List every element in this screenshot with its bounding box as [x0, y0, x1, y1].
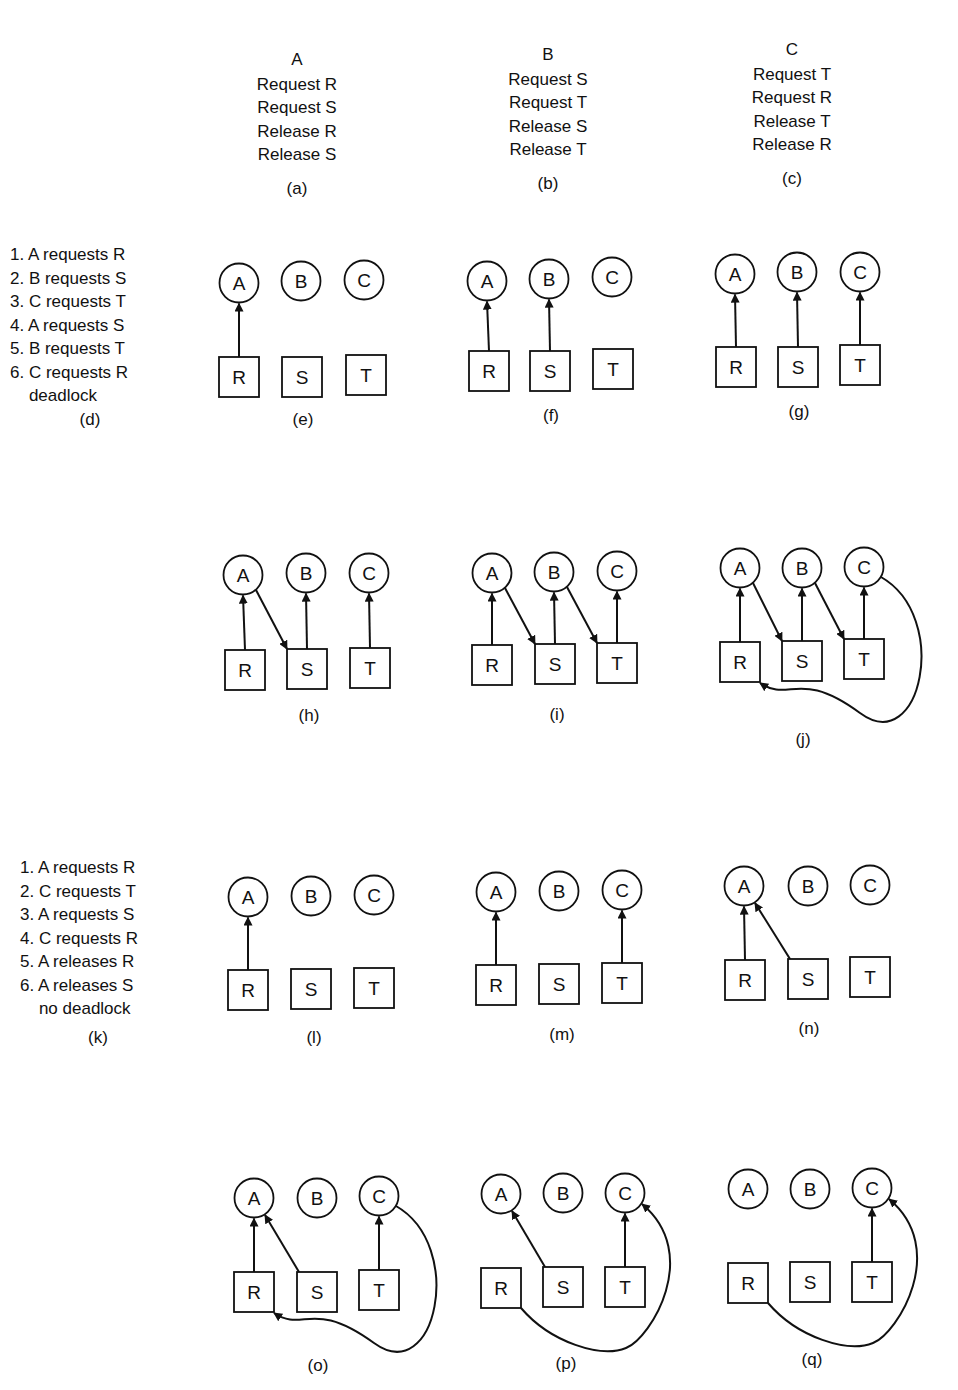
node-label: C [863, 875, 877, 896]
node-label: R [485, 655, 499, 676]
node-label: S [792, 357, 805, 378]
graph-q: ABCRST [728, 1169, 917, 1347]
holds-edge-S-A [512, 1211, 545, 1267]
node-label: A [490, 882, 503, 903]
node-label: B [295, 271, 308, 292]
holds-edge-S-A [265, 1215, 299, 1272]
graph-l: ABCRST [228, 876, 394, 1011]
holds-edge-S-B [306, 594, 307, 650]
node-label: C [853, 262, 867, 283]
node-label: R [232, 367, 246, 388]
graph-e: ABCRST [219, 261, 386, 398]
node-label: A [242, 887, 255, 908]
node-label: S [557, 1277, 570, 1298]
node-label: B [553, 881, 566, 902]
node-label: T [364, 658, 376, 679]
node-label: R [729, 357, 743, 378]
node-label: C [372, 1186, 386, 1207]
node-label: A [729, 264, 742, 285]
node-label: R [238, 660, 252, 681]
node-label: C [857, 557, 871, 578]
node-label: B [311, 1188, 324, 1209]
node-label: R [738, 970, 752, 991]
graph-p: ABCRST [481, 1174, 670, 1352]
node-label: T [619, 1277, 631, 1298]
node-label: S [796, 651, 809, 672]
node-label: A [481, 271, 494, 292]
node-label: S [804, 1272, 817, 1293]
node-label: A [248, 1188, 261, 1209]
node-label: A [486, 563, 499, 584]
node-label: T [858, 649, 870, 670]
node-label: B [796, 558, 809, 579]
node-label: T [368, 978, 380, 999]
node-label: R [482, 361, 496, 382]
node-label: C [367, 885, 381, 906]
node-label: T [360, 365, 372, 386]
node-label: R [241, 980, 255, 1001]
graph-h: ABCRST [224, 554, 391, 691]
graph-g: ABCRST [716, 253, 881, 388]
node-label: R [741, 1273, 755, 1294]
node-label: C [618, 1183, 632, 1204]
node-label: C [362, 563, 376, 584]
node-label: T [611, 653, 623, 674]
node-label: R [247, 1282, 261, 1303]
node-label: S [544, 361, 557, 382]
node-label: B [300, 563, 313, 584]
node-label: B [791, 262, 804, 283]
request-edge-A-S [505, 588, 535, 644]
node-label: T [373, 1280, 385, 1301]
holds-edge-R-A [744, 907, 745, 961]
node-label: A [738, 876, 751, 897]
holds-edge-R-A [487, 302, 489, 352]
node-label: C [610, 561, 624, 582]
node-label: A [734, 558, 747, 579]
node-label: A [237, 565, 250, 586]
holds-edge-T-C [369, 594, 370, 649]
node-label: R [494, 1278, 508, 1299]
node-label: T [864, 967, 876, 988]
node-label: B [305, 886, 318, 907]
node-label: T [866, 1272, 878, 1293]
node-label: C [865, 1178, 879, 1199]
graph-i: ABCRST [472, 552, 637, 686]
node-label: S [301, 659, 314, 680]
node-label: B [548, 562, 561, 583]
node-label: C [615, 880, 629, 901]
holds-edge-S-B [554, 593, 555, 645]
holds-edge-R-A [243, 596, 245, 651]
node-label: A [495, 1184, 508, 1205]
node-label: B [543, 269, 556, 290]
graphs-layer: ABCRSTABCRSTABCRSTABCRSTABCRSTABCRSTABCR… [219, 253, 921, 1352]
request-edge-B-T [567, 587, 597, 643]
graph-m: ABCRST [476, 871, 642, 1006]
graph-j: ABCRST [720, 548, 921, 722]
node-label: A [742, 1179, 755, 1200]
node-label: R [489, 975, 503, 996]
node-label: S [802, 969, 815, 990]
request-edge-A-S [256, 590, 287, 649]
request-edge-A-S [753, 583, 782, 641]
graph-n: ABCRST [725, 866, 891, 1001]
node-label: B [804, 1179, 817, 1200]
node-label: B [557, 1183, 570, 1204]
holds-edge-S-B [797, 293, 798, 348]
holds-edge-S-A [755, 903, 790, 959]
node-label: T [616, 973, 628, 994]
node-label: C [357, 270, 371, 291]
node-label: S [305, 979, 318, 1000]
node-label: B [802, 876, 815, 897]
resource-graph-canvas: ABCRSTABCRSTABCRSTABCRSTABCRSTABCRSTABCR… [0, 0, 958, 1390]
request-edge-B-T [815, 583, 844, 639]
node-label: A [233, 273, 246, 294]
node-label: S [553, 974, 566, 995]
node-label: T [854, 355, 866, 376]
node-label: T [607, 359, 619, 380]
node-label: R [733, 652, 747, 673]
node-label: C [605, 267, 619, 288]
node-label: S [311, 1282, 324, 1303]
holds-edge-R-A [735, 295, 736, 348]
graph-o: ABCRST [234, 1177, 436, 1352]
node-label: S [549, 654, 562, 675]
